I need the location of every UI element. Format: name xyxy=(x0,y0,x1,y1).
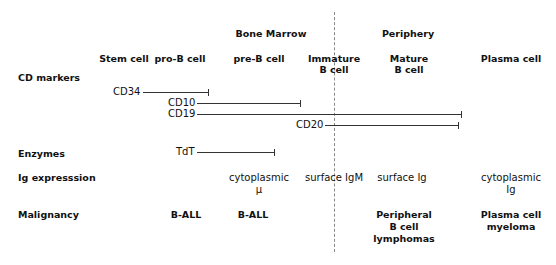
bone-marrow-periphery-divider xyxy=(334,12,335,252)
marker-cd10-end-tick xyxy=(300,100,301,107)
malignancy-plasma-line1: Plasma cell xyxy=(481,209,542,220)
stage-mature-b-cell-line1: Mature xyxy=(390,53,428,64)
stage-plasma-cell: Plasma cell xyxy=(481,53,542,64)
ig-immature: surface IgM xyxy=(305,172,363,183)
malignancy-mature-line1: Peripheral xyxy=(376,209,432,220)
stage-immature-b-cell-line1: Immature xyxy=(308,53,360,64)
ig-mature: surface Ig xyxy=(377,172,426,183)
row-label-malignancy: Malignancy xyxy=(18,209,79,220)
ig-plasma-line1: cytoplasmic xyxy=(481,172,541,183)
ig-pre-b-line2: μ xyxy=(256,184,262,195)
enzyme-tdt-bar xyxy=(197,152,274,153)
malignancy-pro-b: B-ALL xyxy=(171,209,202,220)
stage-pro-b-cell: pro-B cell xyxy=(154,53,205,64)
stage-immature-b-cell-line2: B cell xyxy=(319,64,348,75)
malignancy-plasma-line2: myeloma xyxy=(487,221,536,232)
ig-plasma-line2: Ig xyxy=(506,184,515,195)
malignancy-pre-b: B-ALL xyxy=(238,209,269,220)
enzyme-tdt-label: TdT xyxy=(176,146,195,157)
region-bone-marrow: Bone Marrow xyxy=(236,28,307,39)
region-periphery: Periphery xyxy=(382,28,434,39)
row-label-enzymes: Enzymes xyxy=(18,148,65,159)
malignancy-mature-line2: B cell xyxy=(389,221,418,232)
marker-cd34-end-tick xyxy=(208,89,209,96)
malignancy-mature-line3: lymphomas xyxy=(373,233,434,244)
marker-cd20-label: CD20 xyxy=(296,119,323,130)
marker-cd19-end-tick xyxy=(461,111,462,118)
stage-mature-b-cell-line2: B cell xyxy=(394,64,423,75)
marker-cd19-label: CD19 xyxy=(168,108,195,119)
row-label-cd-markers: CD markers xyxy=(18,72,80,83)
stage-stem-cell: Stem cell xyxy=(99,53,149,64)
marker-cd34-bar xyxy=(143,92,208,93)
marker-cd10-label: CD10 xyxy=(168,97,195,108)
marker-cd34-label: CD34 xyxy=(113,86,140,97)
enzyme-tdt-end-tick xyxy=(274,149,275,156)
marker-cd20-bar xyxy=(325,125,458,126)
marker-cd20-end-tick xyxy=(458,122,459,129)
row-label-ig-expression: Ig expresssion xyxy=(18,172,96,183)
marker-cd19-bar xyxy=(197,114,461,115)
stage-pre-b-cell: pre-B cell xyxy=(233,53,284,64)
ig-pre-b-line1: cytoplasmic xyxy=(229,172,289,183)
marker-cd10-bar xyxy=(197,103,300,104)
